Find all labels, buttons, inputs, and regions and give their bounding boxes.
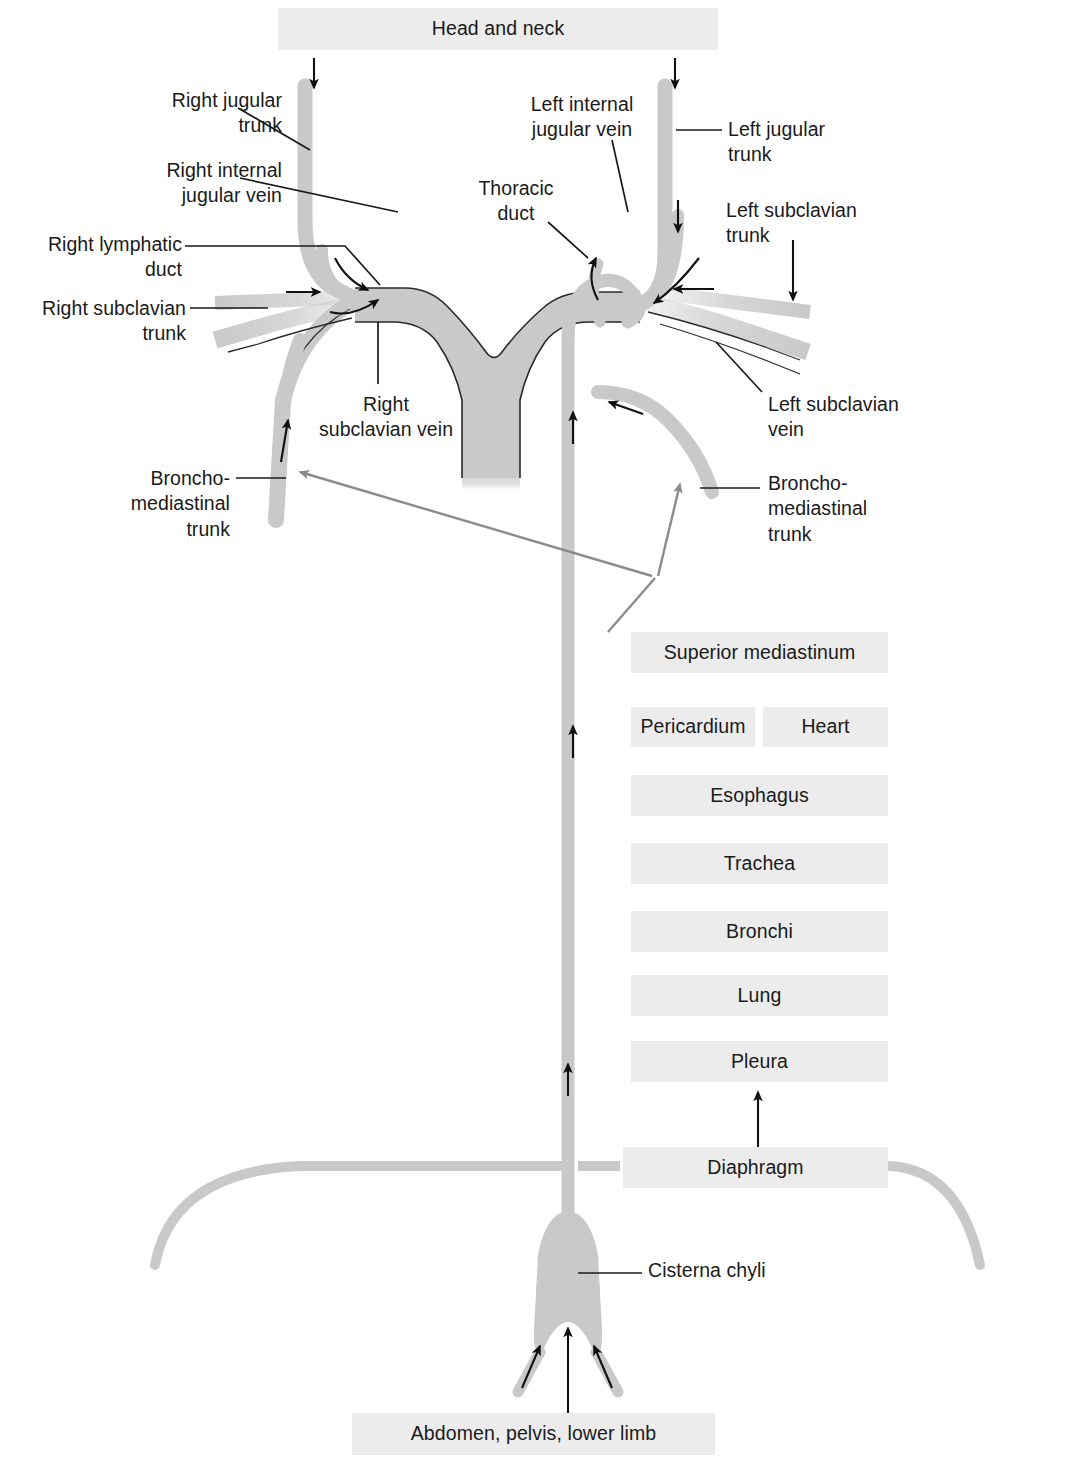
label-broncho-mediastinal-trunk-right: Broncho- mediastinal trunk	[100, 466, 230, 542]
label-right-internal-jugular-vein: Right internal jugular vein	[88, 158, 282, 209]
arrow-lumbar-left-up	[594, 1346, 612, 1388]
arrow-right-venous-angle-in	[330, 300, 378, 314]
arrow-lumbar-right-up	[522, 1346, 540, 1388]
label-right-jugular-trunk: Right jugular trunk	[98, 88, 282, 139]
leader-left-internal-jugular-vein	[612, 140, 628, 212]
region-box-diaphragm: Diaphragm	[623, 1147, 888, 1188]
region-box-abdomen-pelvis-lower-limb: Abdomen, pelvis, lower limb	[352, 1413, 715, 1455]
arrow-thoracic-duct-terminal	[591, 258, 598, 300]
label-cisterna-chyli: Cisterna chyli	[648, 1258, 808, 1283]
lymphatic-drainage-diagram: Head and neck Superior mediastinum Peric…	[0, 0, 1066, 1472]
region-box-label: Abdomen, pelvis, lower limb	[411, 1423, 656, 1444]
region-box-heart: Heart	[763, 707, 888, 747]
label-right-subclavian-vein: Right subclavian vein	[300, 392, 472, 443]
leader-left-subclavian-vein	[716, 342, 762, 392]
region-box-head-and-neck: Head and neck	[278, 8, 718, 50]
label-left-internal-jugular-vein: Left internal jugular vein	[512, 92, 652, 143]
region-box-lung: Lung	[631, 975, 888, 1016]
region-box-trachea: Trachea	[631, 843, 888, 884]
leader-thoracic-duct	[548, 222, 588, 258]
arrow-bmt-right-up	[281, 420, 288, 462]
label-thoracic-duct: Thoracic duct	[466, 176, 566, 227]
region-box-label: Bronchi	[726, 921, 793, 942]
region-box-esophagus: Esophagus	[631, 775, 888, 816]
region-box-label: Lung	[738, 985, 782, 1006]
region-box-pleura: Pleura	[631, 1041, 888, 1082]
region-box-label: Heart	[801, 716, 849, 737]
label-broncho-mediastinal-trunk-left: Broncho- mediastinal trunk	[768, 471, 918, 547]
gray-arrow-stem	[608, 578, 655, 632]
gray-arrow-to-left-bmt	[658, 484, 680, 576]
arrow-left-jugular-trunk-in	[654, 258, 699, 303]
superior-mediastinum-pointer-arrows	[300, 472, 680, 632]
arrow-bmt-left-up	[609, 402, 643, 414]
region-box-label: Trachea	[724, 853, 796, 874]
region-box-label: Pleura	[731, 1051, 788, 1072]
region-box-superior-mediastinum: Superior mediastinum	[631, 632, 888, 673]
label-left-jugular-trunk: Left jugular trunk	[728, 117, 858, 168]
label-right-lymphatic-duct: Right lymphatic duct	[22, 232, 182, 283]
leader-lines	[185, 108, 793, 1273]
region-box-label: Superior mediastinum	[664, 642, 856, 663]
arrow-right-lymphatic-in	[335, 258, 368, 290]
region-box-label: Head and neck	[432, 18, 564, 39]
label-right-subclavian-trunk: Right subclavian trunk	[22, 296, 186, 347]
region-box-label: Esophagus	[710, 785, 808, 806]
label-left-subclavian-trunk: Left subclavian trunk	[726, 198, 888, 249]
region-box-pericardium: Pericardium	[631, 707, 755, 747]
gray-arrow-to-right-bmt	[300, 472, 652, 576]
label-left-subclavian-vein: Left subclavian vein	[768, 392, 930, 443]
region-box-label: Diaphragm	[707, 1157, 803, 1178]
region-box-bronchi: Bronchi	[631, 911, 888, 952]
region-box-label: Pericardium	[640, 716, 745, 737]
